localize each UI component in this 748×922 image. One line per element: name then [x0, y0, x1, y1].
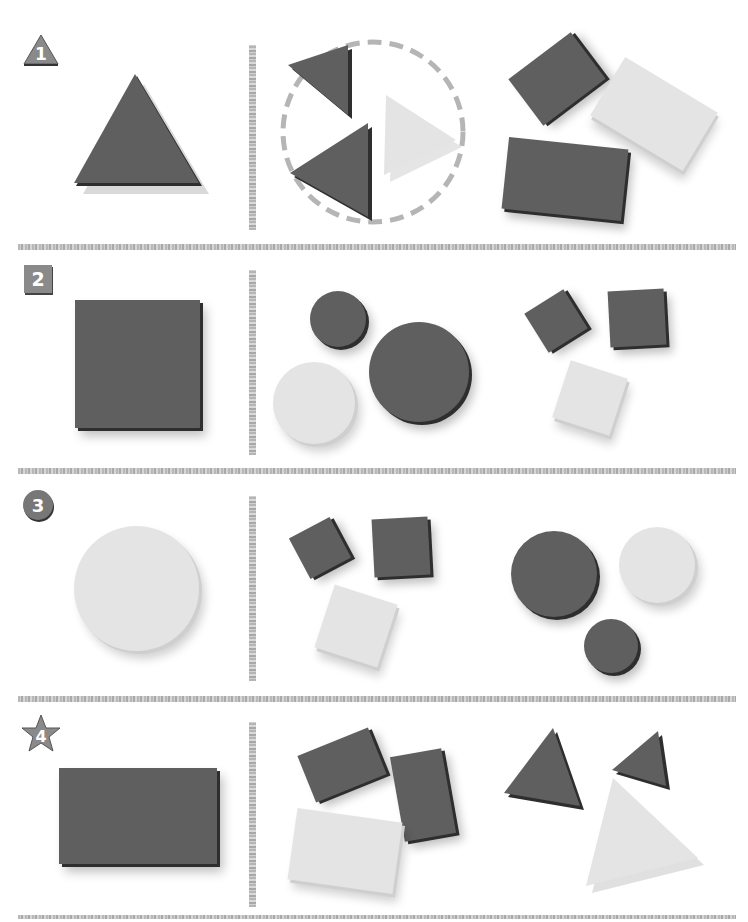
answer-circle-selection[interactable] [278, 37, 468, 227]
row-separator-3 [18, 696, 736, 702]
dark-square [608, 289, 667, 348]
triangles-group [500, 730, 740, 910]
problem-number: 3 [32, 495, 45, 516]
row-separator-2 [18, 468, 736, 474]
problem-3-badge: 3 [23, 490, 53, 520]
row-separator-1 [18, 244, 736, 250]
problem-number: 2 [31, 268, 44, 290]
target-circle [74, 526, 199, 651]
column-divider-3 [249, 496, 256, 681]
problem-number: 4 [35, 727, 46, 746]
problem-4-badge: 4 [19, 713, 63, 755]
dark-square-small [289, 517, 351, 579]
light-circle [619, 527, 695, 603]
target-square [75, 300, 200, 428]
light-circle [273, 362, 355, 444]
column-divider-4 [249, 722, 256, 907]
dark-rectangle [297, 728, 386, 803]
target-rectangle [59, 768, 217, 864]
dark-rectangle-large [502, 137, 629, 221]
problem-number: 1 [35, 44, 47, 64]
light-rectangle [288, 808, 403, 894]
problem-2-badge: 2 [24, 265, 52, 293]
light-square [552, 360, 628, 436]
light-square [314, 584, 397, 667]
column-divider-1 [249, 45, 256, 230]
problem-1-badge: 1 [22, 33, 60, 67]
dark-circle-large [369, 322, 469, 422]
dark-circle-small [310, 291, 366, 347]
row-separator-4 [18, 915, 736, 919]
dark-circle-large [511, 531, 597, 617]
column-divider-2 [249, 270, 256, 455]
dark-square [372, 517, 431, 578]
target-triangle [74, 74, 209, 194]
dark-circle-small [584, 619, 638, 673]
dark-square-small [524, 289, 587, 352]
